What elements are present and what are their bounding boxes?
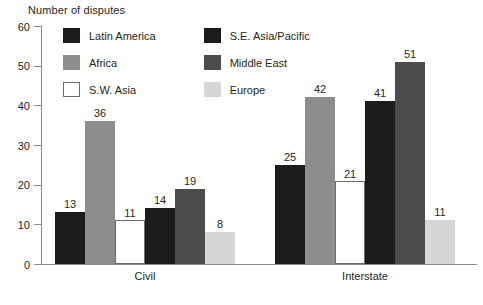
bar: 11: [425, 220, 455, 264]
legend-item: Middle East: [204, 55, 310, 70]
legend-item: Latin America: [63, 28, 156, 43]
bar-value-label: 14: [154, 194, 166, 206]
legend-label: Latin America: [89, 30, 156, 42]
legend-swatch-icon: [63, 55, 80, 70]
bar: 51: [395, 62, 425, 264]
bar-value-label: 25: [284, 151, 296, 163]
y-axis-tick-label: 10: [18, 219, 30, 231]
bar: 21: [335, 181, 365, 264]
y-axis-tick: 10: [34, 224, 41, 225]
legend-label: Middle East: [230, 57, 287, 69]
y-axis-tick-label: 0: [24, 259, 30, 271]
y-axis-tick-label: 40: [18, 100, 30, 112]
y-axis-tick-label: 60: [18, 21, 30, 33]
bar-value-label: 8: [217, 218, 223, 230]
bar-value-label: 21: [344, 168, 356, 180]
legend-swatch-icon: [63, 28, 80, 43]
y-axis-tick: 50: [34, 66, 41, 67]
x-axis-group-label: Civil: [135, 270, 156, 282]
legend-swatch-icon: [204, 28, 221, 43]
bar: 19: [175, 189, 205, 264]
bar-value-label: 11: [124, 207, 135, 219]
bar: 11: [115, 220, 145, 264]
bar: 14: [145, 208, 175, 264]
bar: 13: [55, 212, 85, 264]
bar-value-label: 19: [184, 175, 196, 187]
legend-swatch-icon: [204, 55, 221, 70]
y-axis-tick-label: 30: [18, 140, 30, 152]
bar: 8: [205, 232, 235, 264]
bar-value-label: 41: [374, 87, 386, 99]
legend-label: S.W. Asia: [89, 84, 136, 96]
x-axis-group-label: Interstate: [342, 270, 388, 282]
legend-item: S.E. Asia/Pacific: [204, 28, 310, 43]
bar-value-label: 13: [64, 198, 76, 210]
legend-swatch-icon: [204, 82, 221, 97]
bar-chart: Number of disputes 0102030405060 1336111…: [0, 0, 483, 305]
legend-label: S.E. Asia/Pacific: [230, 30, 310, 42]
y-axis-tick-label: 20: [18, 179, 30, 191]
y-axis-tick: 0: [34, 264, 41, 265]
y-axis-tick: 30: [34, 145, 41, 146]
legend-label: Africa: [89, 57, 117, 69]
bar-value-label: 36: [94, 107, 106, 119]
y-axis-line: [41, 26, 42, 265]
legend-swatch-icon: [63, 82, 80, 97]
y-axis-tick: 60: [34, 26, 41, 27]
bar: 41: [365, 101, 395, 264]
bar-value-label: 51: [404, 48, 416, 60]
y-axis-tick: 40: [34, 105, 41, 106]
x-axis-line: [41, 264, 477, 265]
bar: 36: [85, 121, 115, 264]
legend-item: Europe: [204, 82, 310, 97]
bar: 42: [305, 97, 335, 264]
legend-label: Europe: [230, 84, 265, 96]
bar-value-label: 11: [434, 206, 445, 218]
bar: 25: [275, 165, 305, 264]
bar-value-label: 42: [314, 83, 326, 95]
legend-item: S.W. Asia: [63, 82, 156, 97]
y-axis-title: Number of disputes: [28, 4, 125, 16]
y-axis-tick-label: 50: [18, 60, 30, 72]
legend-item: Africa: [63, 55, 156, 70]
y-axis-tick: 20: [34, 185, 41, 186]
chart-legend: Latin AmericaS.E. Asia/PacificAfricaMidd…: [63, 28, 310, 97]
